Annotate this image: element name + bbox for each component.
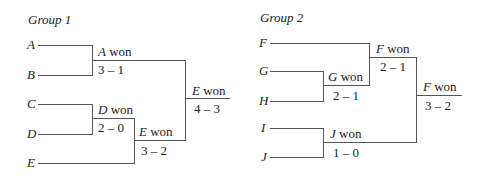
group-1-title: Group 1 bbox=[28, 12, 71, 28]
match-score: 3 – 1 bbox=[98, 62, 124, 78]
team-g: G bbox=[259, 63, 268, 79]
bracket-line bbox=[416, 57, 417, 143]
team-d: D bbox=[27, 126, 36, 142]
team-h: H bbox=[259, 93, 268, 109]
match-score: 2 – 1 bbox=[333, 88, 359, 104]
bracket-line bbox=[38, 75, 92, 76]
bracket-line bbox=[38, 104, 92, 105]
match-result-label: F won bbox=[376, 41, 410, 57]
team-f: F bbox=[259, 35, 267, 51]
team-e: E bbox=[27, 155, 35, 171]
bracket-line bbox=[270, 43, 369, 44]
match-score: 2 – 0 bbox=[98, 120, 124, 136]
bracket-line bbox=[92, 104, 93, 135]
match-score: 1 – 0 bbox=[333, 145, 359, 161]
bracket-line bbox=[323, 128, 324, 158]
match-result-label: G won bbox=[328, 69, 363, 85]
match-result-label: J won bbox=[330, 126, 361, 142]
match-score: 2 – 1 bbox=[380, 59, 406, 75]
match-result-label: D won bbox=[98, 102, 133, 118]
team-j: J bbox=[261, 149, 267, 165]
bracket-line bbox=[38, 163, 134, 164]
bracket-line bbox=[185, 60, 186, 141]
team-a: A bbox=[27, 37, 35, 53]
final-score: 3 – 2 bbox=[425, 98, 451, 114]
bracket-line bbox=[270, 101, 323, 102]
bracket-line bbox=[416, 95, 462, 96]
bracket-line bbox=[270, 71, 323, 72]
match-result-label: A won bbox=[98, 44, 132, 60]
bracket-line bbox=[270, 128, 323, 129]
match-score: 3 – 2 bbox=[141, 143, 167, 159]
bracket-line bbox=[369, 57, 416, 58]
final-result-label: E won bbox=[192, 83, 226, 99]
bracket-line bbox=[323, 85, 369, 86]
team-b: B bbox=[27, 67, 35, 83]
bracket-line bbox=[134, 140, 185, 141]
team-i: I bbox=[261, 120, 265, 136]
final-score: 4 – 3 bbox=[194, 101, 220, 117]
bracket-line bbox=[270, 157, 323, 158]
bracket-line bbox=[323, 71, 324, 102]
bracket-line bbox=[369, 43, 370, 86]
team-c: C bbox=[27, 96, 36, 112]
final-result-label: F won bbox=[423, 79, 457, 95]
bracket-line bbox=[134, 118, 135, 164]
bracket-line bbox=[38, 134, 92, 135]
bracket-line bbox=[323, 142, 416, 143]
bracket-line bbox=[38, 45, 92, 46]
bracket-line bbox=[92, 118, 134, 119]
group-2-title: Group 2 bbox=[260, 10, 303, 26]
bracket-line bbox=[92, 60, 185, 61]
match-result-label: E won bbox=[139, 124, 173, 140]
